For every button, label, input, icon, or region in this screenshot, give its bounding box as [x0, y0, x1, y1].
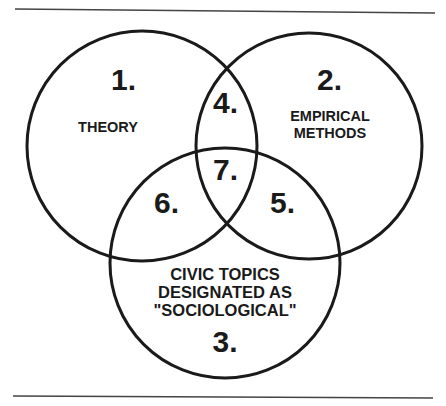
region-number-2: 2. [317, 63, 342, 96]
region-number-6: 6. [154, 186, 179, 219]
region-number-4: 4. [213, 86, 238, 119]
circle-theory [27, 31, 257, 261]
label-theory: THEORY [78, 119, 138, 135]
region-number-3: 3. [212, 325, 237, 358]
label-civic-topics: CIVIC TOPICS [170, 265, 280, 283]
circle-empirical-methods [196, 33, 422, 259]
bottom-rule [13, 396, 433, 398]
venn-diagram: 1. THEORY 2. EMPIRICAL METHODS 4. 7. 6. … [0, 0, 446, 406]
label-designated-as: DESIGNATED AS [158, 283, 292, 301]
top-rule [15, 9, 435, 13]
region-number-1: 1. [111, 63, 136, 96]
label-methods: METHODS [294, 125, 367, 141]
label-empirical: EMPIRICAL [290, 108, 370, 124]
label-sociological: "SOCIOLOGICAL" [153, 301, 296, 319]
region-number-5: 5. [270, 186, 295, 219]
region-number-7: 7. [213, 153, 238, 186]
